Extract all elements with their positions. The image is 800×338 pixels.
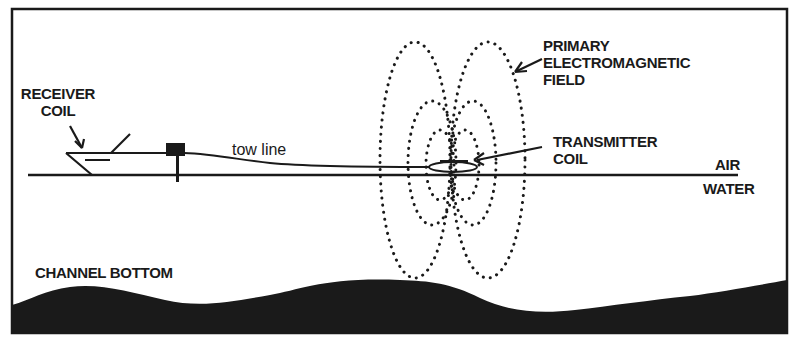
receiver-coil-arrow xyxy=(70,126,84,148)
field-loop-outer-left xyxy=(380,42,450,278)
diagram-canvas: RECEIVER COIL tow line PRIMARY ELECTROMA… xyxy=(0,0,800,338)
channel-bottom-label: CHANNEL BOTTOM xyxy=(35,264,173,281)
air-label: AIR xyxy=(715,156,740,173)
primary-field-label-line3: FIELD xyxy=(543,71,690,88)
channel-bottom-terrain xyxy=(12,280,787,333)
tow-line-label: tow line xyxy=(232,141,286,158)
tow-line-cable xyxy=(184,153,430,167)
transmitter-coil-arrow xyxy=(474,147,542,165)
primary-field-label: PRIMARY ELECTROMAGNETIC FIELD xyxy=(543,37,690,88)
primary-field-label-line2: ELECTROMAGNETIC xyxy=(543,54,690,71)
receiver-coil-label: RECEIVER COIL xyxy=(16,85,100,119)
water-label: WATER xyxy=(703,180,755,197)
transmitter-coil-label-line1: TRANSMITTER xyxy=(553,133,657,150)
receiver-boat xyxy=(66,134,167,175)
receiver-coil-label-line2: COIL xyxy=(16,102,100,119)
primary-field-label-line1: PRIMARY xyxy=(543,37,690,54)
transmitter-coil-label: TRANSMITTER COIL xyxy=(553,133,657,167)
primary-field-arrow xyxy=(515,59,542,72)
primary-electromagnetic-field xyxy=(380,42,525,278)
receiver-coil-label-line1: RECEIVER xyxy=(16,85,100,102)
transmitter-coil-label-line2: COIL xyxy=(553,150,657,167)
